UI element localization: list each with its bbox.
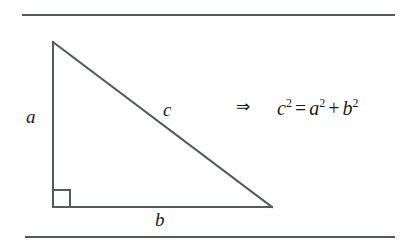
horizontal-rule-bottom: [25, 236, 395, 238]
equation-term1-variable: a: [309, 97, 319, 119]
side-label-c: c: [163, 100, 171, 119]
equation-plus-sign: +: [325, 97, 342, 119]
equation-left-exponent: 2: [286, 96, 292, 110]
triangle-hypotenuse-c: [53, 42, 272, 207]
equation-term2-variable: b: [342, 97, 352, 119]
side-label-a: a: [26, 107, 36, 126]
right-triangle-diagram: [0, 0, 409, 252]
side-label-b: b: [155, 210, 165, 229]
equation-term2-exponent: 2: [352, 96, 358, 110]
right-angle-marker: [53, 190, 70, 207]
equation-left-variable: c: [277, 97, 286, 119]
equation-equals-sign: =: [292, 97, 309, 119]
pythagorean-equation: c2=a2+b2: [277, 98, 358, 118]
implies-arrow-icon: ⇒: [236, 98, 250, 115]
figure-canvas: a c b ⇒ c2=a2+b2: [0, 0, 409, 252]
